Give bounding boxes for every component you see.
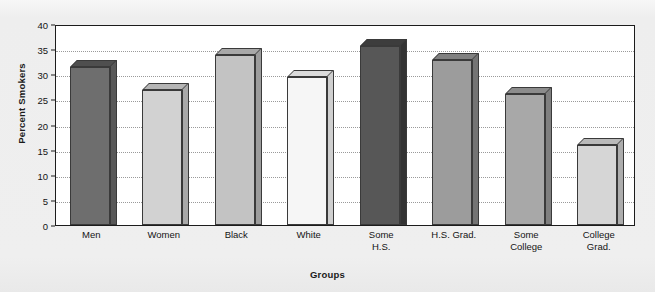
- bar-top-face: [70, 60, 117, 67]
- bar: [432, 53, 479, 225]
- bar-top-face: [360, 39, 407, 46]
- bar-front-face: [70, 67, 110, 225]
- bar-front-face: [142, 90, 182, 225]
- bar-top-face: [505, 87, 552, 94]
- bar-side-face: [545, 87, 552, 225]
- bar-top-face: [142, 83, 189, 90]
- x-axis-tick-label: SomeCollege: [490, 229, 563, 252]
- y-axis-tick-label: 15: [0, 145, 48, 156]
- x-axis-tick-label: Men: [55, 229, 128, 241]
- bar-side-face: [472, 53, 479, 225]
- scan-artifact-text: [0, 0, 655, 5]
- bar-top-face: [577, 138, 624, 145]
- x-axis-tick-label: White: [273, 229, 346, 241]
- bar: [70, 60, 117, 225]
- bar-top-face: [287, 70, 334, 77]
- y-axis-tick-label: 0: [0, 221, 48, 232]
- bar-top-face: [215, 48, 262, 55]
- y-axis-tick-label: 20: [0, 120, 48, 131]
- y-axis-tick-label: 35: [0, 45, 48, 56]
- x-axis-title: Groups: [0, 269, 655, 280]
- y-axis-ticks: 0510152025303540: [0, 25, 52, 226]
- bar-front-face: [360, 46, 400, 225]
- x-axis-tick-label: Women: [128, 229, 201, 241]
- bar: [360, 39, 407, 225]
- y-axis-tick-label: 40: [0, 20, 48, 31]
- y-axis-tick-label: 30: [0, 70, 48, 81]
- bar-chart-figure: Percent Smokers 0510152025303540 MenWome…: [0, 6, 655, 286]
- bar-side-face: [400, 39, 407, 225]
- bar: [505, 87, 552, 225]
- x-axis-tick-label: SomeH.S.: [345, 229, 418, 252]
- bar-side-face: [182, 83, 189, 225]
- bar: [215, 48, 262, 225]
- y-axis-tick-label: 25: [0, 95, 48, 106]
- x-axis-tick-label: Black: [200, 229, 273, 241]
- plot-area: [55, 25, 635, 226]
- bar: [142, 83, 189, 225]
- bar-side-face: [617, 138, 624, 225]
- bar: [577, 138, 624, 225]
- bar: [287, 70, 334, 225]
- bar-top-face: [432, 53, 479, 60]
- bar-front-face: [287, 77, 327, 225]
- bar-front-face: [577, 145, 617, 225]
- x-axis-tick-labels: MenWomenBlackWhiteSomeH.S.H.S. Grad.Some…: [55, 229, 635, 267]
- page-background: Percent Smokers 0510152025303540 MenWome…: [0, 0, 655, 292]
- x-axis-tick-label: H.S. Grad.: [418, 229, 491, 241]
- y-axis-tick-label: 10: [0, 170, 48, 181]
- bar-side-face: [110, 60, 117, 225]
- x-axis-tick-label: CollegeGrad.: [563, 229, 636, 252]
- bar-front-face: [505, 94, 545, 225]
- bar-front-face: [432, 60, 472, 225]
- bar-side-face: [255, 48, 262, 225]
- bar-side-face: [327, 70, 334, 225]
- bars-group: [56, 26, 634, 225]
- y-axis-tick-label: 5: [0, 195, 48, 206]
- bar-front-face: [215, 55, 255, 225]
